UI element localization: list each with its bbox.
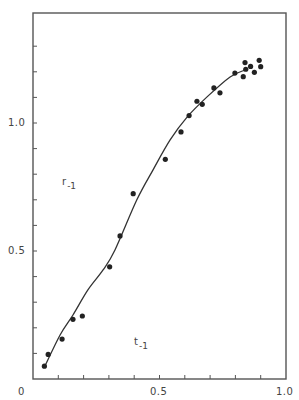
data-point	[194, 99, 199, 104]
data-point	[248, 64, 253, 69]
data-point	[241, 74, 246, 79]
data-point	[163, 157, 168, 162]
data-point	[131, 191, 136, 196]
annotation-r-subscript: -1	[67, 181, 76, 191]
data-point	[211, 85, 216, 90]
data-point	[59, 336, 64, 341]
annotation-t-symbol: t	[134, 336, 138, 347]
data-points	[42, 58, 264, 369]
data-point	[107, 264, 112, 269]
data-point	[242, 60, 247, 65]
plot-frame	[33, 13, 286, 379]
data-point	[178, 129, 183, 134]
annotation-r-symbol: r	[62, 176, 66, 187]
data-point	[217, 90, 222, 95]
data-point	[252, 70, 257, 75]
data-point	[257, 58, 262, 63]
annotation-r-minus-1: r-1	[62, 176, 76, 187]
data-point	[187, 113, 192, 118]
annotation-t-subscript: -1	[139, 341, 148, 351]
data-point	[42, 364, 47, 369]
data-point	[232, 70, 237, 75]
data-point	[243, 67, 248, 72]
annotation-t-minus-1: t-1	[134, 336, 148, 347]
data-point	[70, 317, 75, 322]
data-point	[46, 352, 51, 357]
chart-canvas	[0, 0, 299, 400]
data-point	[117, 233, 122, 238]
y-tick-label-1-0: 1.0	[8, 117, 25, 128]
x-tick-label-0-5: 0.5	[150, 386, 167, 397]
x-tick-label-0: 0	[18, 386, 25, 397]
x-tick-label-1-0: 1.0	[276, 386, 293, 397]
fitted-curve	[45, 70, 245, 367]
y-tick-label-0-5: 0.5	[8, 245, 25, 256]
data-point	[80, 313, 85, 318]
data-point	[200, 102, 205, 107]
data-point	[258, 64, 263, 69]
